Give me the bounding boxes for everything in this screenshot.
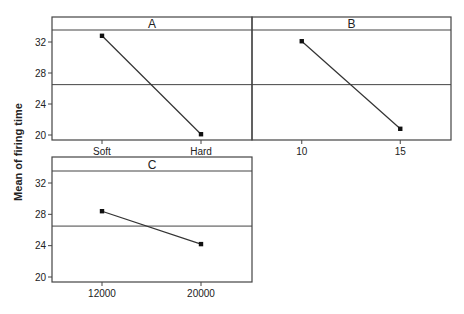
panel-frame — [52, 17, 252, 140]
data-point — [100, 34, 104, 38]
x-tick-label: 10 — [296, 146, 308, 157]
data-point — [100, 209, 104, 213]
panel-title: A — [148, 17, 156, 31]
effect-line — [102, 211, 201, 244]
y-tick-label: 20 — [35, 130, 47, 141]
x-tick-label: 20000 — [187, 288, 215, 299]
panel-frame — [52, 157, 252, 282]
data-point — [398, 127, 402, 131]
panel-title: C — [148, 158, 157, 172]
chart-canvas: A20242832SoftHardB1015C20242832120002000… — [0, 0, 464, 314]
panel-title: B — [347, 17, 355, 31]
y-tick-label: 32 — [35, 37, 47, 48]
data-point — [199, 242, 203, 246]
x-tick-label: 12000 — [88, 288, 116, 299]
panel-frame — [252, 17, 451, 140]
y-tick-label: 24 — [35, 99, 47, 110]
y-axis-label: Mean of firing time — [12, 82, 24, 222]
y-tick-label: 32 — [35, 178, 47, 189]
y-tick-label: 20 — [35, 272, 47, 283]
y-tick-label: 28 — [35, 209, 47, 220]
y-tick-label: 28 — [35, 68, 47, 79]
x-tick-label: Hard — [190, 146, 212, 157]
x-tick-label: Soft — [93, 146, 111, 157]
data-point — [300, 39, 304, 43]
x-tick-label: 15 — [395, 146, 407, 157]
data-point — [199, 132, 203, 136]
y-tick-label: 24 — [35, 240, 47, 251]
